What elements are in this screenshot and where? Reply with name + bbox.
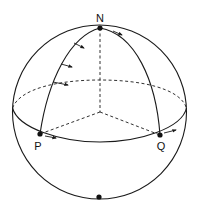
- vector-arrow-q: [164, 130, 176, 133]
- meridian-np: [40, 28, 100, 134]
- label-p: P: [34, 140, 41, 152]
- equator-back: [13, 80, 187, 108]
- point-q: [157, 132, 162, 137]
- label-n: N: [96, 12, 104, 24]
- sphere-diagram: N P Q: [0, 0, 198, 206]
- axis-p: [40, 112, 100, 134]
- meridian-nq: [100, 28, 160, 135]
- label-q: Q: [157, 140, 166, 152]
- point-p: [37, 131, 42, 136]
- vector-arrow-2: [61, 64, 72, 67]
- point-n: [97, 25, 102, 30]
- vector-arrow-1: [74, 43, 84, 48]
- point-south: [96, 194, 101, 199]
- axis-q: [100, 112, 160, 135]
